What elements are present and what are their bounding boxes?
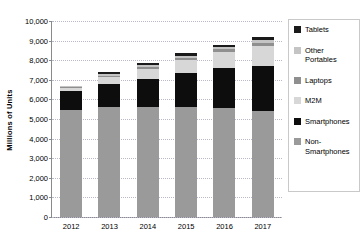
plot-area: 01,0002,0003,0004,0005,0006,0007,0008,00… [51, 21, 282, 218]
bar-slot: 2017 [244, 21, 282, 217]
bar-segment-smartphones [60, 91, 82, 111]
stacked-bar[interactable] [60, 86, 82, 217]
bar-segment-smartphones [252, 66, 274, 111]
bar-slot: 2015 [167, 21, 205, 217]
y-axis-tick-label: 0 [44, 213, 48, 222]
legend-item-label: M2M [305, 96, 322, 106]
x-axis-tick-label: 2014 [139, 222, 156, 231]
y-axis-title: Millions of Units [2, 55, 16, 185]
chart-legend: TabletsOther PortablesLaptopsM2MSmartpho… [288, 19, 360, 192]
bar-slot: 2014 [129, 21, 167, 217]
bar-segment-m2m [252, 46, 274, 67]
legend-swatch-icon [294, 26, 301, 33]
stacked-bar[interactable] [98, 72, 120, 217]
legend-item-label: Tablets [305, 25, 329, 35]
bar-slot: 2013 [90, 21, 128, 217]
legend-swatch-icon [294, 77, 301, 84]
legend-item-label: Laptops [305, 76, 332, 86]
legend-item[interactable]: Smartphones [294, 117, 355, 127]
bar-slot: 2012 [52, 21, 90, 217]
stacked-bar[interactable] [137, 63, 159, 217]
x-axis-tick-label: 2012 [63, 222, 80, 231]
legend-item-label: Other Portables [305, 46, 355, 65]
y-axis-tick-label: 5,000 [29, 115, 48, 124]
y-axis-tick-label: 6,000 [29, 95, 48, 104]
bar-segment-non-smartphones [175, 107, 197, 217]
legend-item-label: Smartphones [305, 117, 350, 127]
legend-swatch-icon [294, 118, 301, 125]
bar-slot: 2016 [205, 21, 243, 217]
y-axis-tick-label: 9,000 [29, 36, 48, 45]
bar-segment-smartphones [98, 84, 120, 108]
legend-item[interactable]: Laptops [294, 76, 355, 86]
stacked-bar[interactable] [175, 53, 197, 217]
y-axis-tick-label: 4,000 [29, 134, 48, 143]
bar-segment-non-smartphones [98, 107, 120, 217]
stacked-bar[interactable] [213, 45, 235, 217]
bar-segment-m2m [175, 60, 197, 73]
legend-item[interactable]: Tablets [294, 25, 355, 35]
legend-item[interactable]: Other Portables [294, 46, 355, 65]
bar-group: 201220132014201520162017 [52, 21, 282, 217]
legend-item[interactable]: M2M [294, 96, 355, 106]
x-axis-tick-label: 2015 [178, 222, 195, 231]
bar-segment-smartphones [175, 73, 197, 107]
legend-swatch-icon [294, 47, 301, 54]
bar-segment-non-smartphones [60, 110, 82, 217]
y-axis-title-text: Millions of Units [5, 89, 14, 150]
y-axis-tick-label: 8,000 [29, 56, 48, 65]
x-axis-tick-label: 2016 [216, 222, 233, 231]
x-axis-tick-label: 2013 [101, 222, 118, 231]
legend-item[interactable]: Non-Smartphones [294, 137, 355, 156]
y-axis-tickmark [49, 217, 52, 218]
bar-segment-non-smartphones [137, 107, 159, 217]
bar-segment-non-smartphones [252, 111, 274, 217]
legend-swatch-icon [294, 97, 301, 104]
y-axis-tick-label: 10,000 [25, 17, 48, 26]
y-axis-tick-label: 1,000 [29, 193, 48, 202]
y-axis-tick-label: 7,000 [29, 75, 48, 84]
bar-segment-m2m [137, 69, 159, 79]
legend-item-label: Non-Smartphones [305, 137, 355, 156]
bar-segment-non-smartphones [213, 108, 235, 217]
bar-segment-smartphones [213, 68, 235, 108]
y-axis-tick-label: 2,000 [29, 173, 48, 182]
stacked-bar-chart: Millions of Units 01,0002,0003,0004,0005… [0, 0, 364, 250]
bar-segment-smartphones [137, 79, 159, 107]
legend-swatch-icon [294, 138, 301, 145]
gridline [52, 217, 282, 218]
stacked-bar[interactable] [252, 37, 274, 217]
y-axis-tick-label: 3,000 [29, 154, 48, 163]
bar-segment-m2m [213, 52, 235, 68]
x-axis-tick-label: 2017 [254, 222, 271, 231]
